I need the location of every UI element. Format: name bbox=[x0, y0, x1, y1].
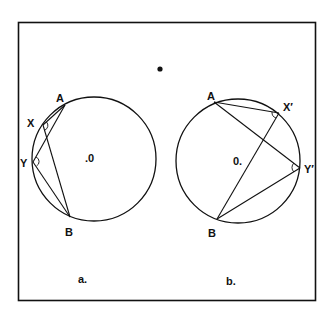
point-label-a-X: X bbox=[27, 117, 35, 129]
point-label-b-Y-prime: Y′ bbox=[304, 163, 314, 175]
panel-b: A X′ Y′ B 0. b. bbox=[176, 90, 314, 287]
center-label-a: .0 bbox=[85, 152, 94, 164]
center-label-b: 0. bbox=[233, 155, 242, 167]
chord-a-AX bbox=[43, 105, 65, 125]
point-label-b-X-prime: X′ bbox=[283, 101, 293, 113]
chord-b-XB bbox=[217, 113, 279, 219]
panel-a: A X Y B .0 a. bbox=[20, 92, 156, 285]
diagram-frame bbox=[19, 23, 316, 301]
angle-mark-y-prime-icon bbox=[292, 163, 294, 172]
point-label-b-B: B bbox=[208, 227, 216, 239]
caption-a: a. bbox=[78, 273, 87, 285]
chord-b-YB bbox=[217, 168, 300, 219]
angle-mark-y-icon bbox=[36, 157, 39, 166]
diagram-canvas: A X Y B .0 a. A X′ Y′ B 0. b. bbox=[0, 0, 332, 314]
point-label-b-A: A bbox=[207, 90, 215, 102]
point-label-a-Y: Y bbox=[20, 157, 28, 169]
point-label-a-A: A bbox=[56, 92, 64, 104]
caption-b: b. bbox=[226, 275, 236, 287]
chord-a-YB bbox=[33, 162, 70, 217]
point-label-a-B: B bbox=[65, 226, 73, 238]
chord-a-XB bbox=[43, 125, 70, 217]
stray-dot bbox=[157, 66, 162, 71]
